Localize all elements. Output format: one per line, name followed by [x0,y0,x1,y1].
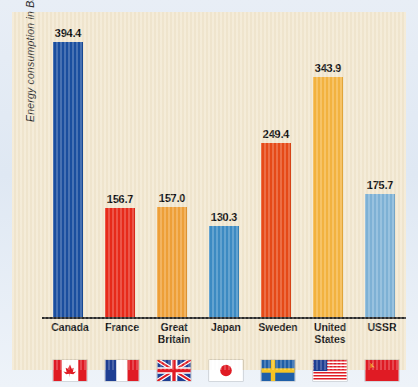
great-britain-flag-icon [157,360,191,381]
france-flag-icon [105,360,139,381]
bar-value-label: 343.9 [315,63,342,74]
bar[interactable] [261,143,291,317]
bar-group: 249.4 [250,18,302,317]
category-label-line: France [96,322,148,334]
bar-group: 130.3 [198,18,250,317]
bar[interactable] [157,207,187,317]
bar-value-label: 394.4 [55,28,82,39]
bar-value-label: 130.3 [211,212,238,223]
ussr-flag-icon [365,360,399,381]
japan-flag-icon [209,360,243,381]
bar-group: 394.4 [42,18,94,317]
flag-cell [252,360,304,386]
category-label-row: CanadaFranceGreatBritainJapanSwedenUnite… [44,322,408,356]
flag-cell [304,360,356,386]
bar[interactable] [53,42,83,317]
plot-area: Energy consumption in Btu 394.4156.7157.… [32,18,406,318]
bar-value-label: 156.7 [107,194,134,205]
category-label: GreatBritain [148,322,200,356]
category-label: Canada [44,322,96,356]
category-label-line: Sweden [252,322,304,334]
bar-series: 394.4156.7157.0130.3249.4343.9175.7 [42,18,406,317]
category-label-line: Great [148,322,200,334]
flag-cell [44,360,96,386]
category-label: USSR [356,322,408,356]
category-label-line: Canada [44,322,96,334]
category-label: UnitedStates [304,322,356,356]
bar-group: 175.7 [354,18,406,317]
united-states-flag-icon [313,360,347,381]
bar[interactable] [313,77,343,317]
category-label-line: Japan [200,322,252,334]
sweden-flag-icon [261,360,295,381]
bar[interactable] [209,226,239,317]
flag-cell [356,360,408,386]
bar-group: 343.9 [302,18,354,317]
category-label: France [96,322,148,356]
bar-value-label: 249.4 [263,129,290,140]
x-axis-baseline [42,317,406,319]
category-label: Sweden [252,322,304,356]
bar-group: 156.7 [94,18,146,317]
flag-cell [200,360,252,386]
chart-panel: Energy consumption in Btu 394.4156.7157.… [12,12,406,370]
category-label: Japan [200,322,252,356]
bar[interactable] [365,194,395,317]
category-label-line: USSR [356,322,408,334]
category-label-line: Britain [148,334,200,346]
category-label-line: United [304,322,356,334]
bar-value-label: 157.0 [159,193,186,204]
canada-flag-icon [53,360,87,381]
chart-frame: Energy consumption in Btu 394.4156.7157.… [0,0,418,387]
y-axis-label: Energy consumption in Btu [24,0,36,122]
bar-value-label: 175.7 [367,180,394,191]
flag-row [44,360,408,386]
category-label-line: States [304,334,356,346]
flag-cell [148,360,200,386]
bar[interactable] [105,208,135,317]
bar-group: 157.0 [146,18,198,317]
flag-cell [96,360,148,386]
